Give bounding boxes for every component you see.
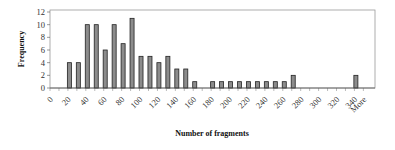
histogram-chart: 024681012 020406080100120140160180200220… <box>0 0 395 150</box>
x-tick-label: 220 <box>236 94 252 110</box>
bar-70 <box>112 25 116 88</box>
y-tick-label: 4 <box>41 58 46 68</box>
x-axis: 0204060801001201401601802002202402602803… <box>45 88 369 114</box>
x-tick-label: 300 <box>307 94 323 110</box>
x-tick-label: 320 <box>325 94 341 110</box>
x-tick-label: 260 <box>272 94 288 110</box>
bar-50 <box>94 25 98 88</box>
bar-250 <box>273 82 277 88</box>
y-axis: 024681012 <box>37 7 51 93</box>
bar-30 <box>76 63 80 88</box>
bar-230 <box>255 82 259 88</box>
bar-40 <box>85 25 89 88</box>
x-tick-label: 140 <box>164 94 180 110</box>
y-axis-title: Frequency <box>17 31 26 67</box>
bar-260 <box>282 82 286 88</box>
bar-150 <box>184 69 188 88</box>
bar-130 <box>166 56 170 88</box>
bar-180 <box>211 82 215 88</box>
x-tick-label: 240 <box>254 94 270 110</box>
y-tick-label: 12 <box>37 7 46 17</box>
bar-80 <box>121 44 125 88</box>
x-tick-label: 80 <box>113 94 126 107</box>
y-tick-label: 2 <box>41 70 45 80</box>
bar-190 <box>220 82 224 88</box>
x-tick-label: 180 <box>200 94 216 110</box>
y-tick-label: 10 <box>37 20 46 30</box>
bar-140 <box>175 69 179 88</box>
x-tick-label: 40 <box>78 94 91 107</box>
bar-60 <box>103 50 107 88</box>
x-axis-title: Number of fragments <box>175 129 249 138</box>
y-tick-label: 6 <box>41 45 45 55</box>
x-tick-label: 0 <box>45 94 55 104</box>
bar-160 <box>193 82 197 88</box>
bar-270 <box>291 75 295 88</box>
y-tick-label: 8 <box>41 32 45 42</box>
bar-240 <box>264 82 268 88</box>
x-tick-label: 100 <box>128 94 144 110</box>
bar-100 <box>139 56 143 88</box>
x-tick-label: 200 <box>218 94 234 110</box>
bar-220 <box>246 82 250 88</box>
bar-90 <box>130 18 134 88</box>
x-tick-label: 20 <box>60 94 73 107</box>
x-tick-label: 60 <box>96 94 109 107</box>
plot-area <box>50 10 375 88</box>
x-tick-label: 120 <box>146 94 162 110</box>
bar-120 <box>157 63 161 88</box>
bar-110 <box>148 56 152 88</box>
x-tick-label: 280 <box>289 94 305 110</box>
bar-210 <box>237 82 241 88</box>
y-tick-label: 0 <box>41 83 45 93</box>
bar-200 <box>229 82 233 88</box>
bar-340 <box>354 75 358 88</box>
x-tick-label: 160 <box>182 94 198 110</box>
bar-20 <box>67 63 71 88</box>
